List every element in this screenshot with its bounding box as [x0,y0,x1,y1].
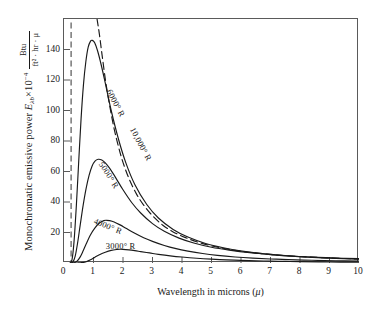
x-axis-tick-label: 1 [82,266,104,277]
y-axis-tick-labels: 20406080100120140 [30,18,60,262]
y-axis-tick-label: 140 [34,44,60,54]
x-axis-title: Wavelength in microns (μ) [63,286,358,297]
blackbody-emissive-power-chart: Monochromatic emissive power Eλb×10−4 Bt… [0,0,380,309]
x-axis-tick-label: 10 [347,266,369,277]
y-axis-tick-label: 20 [34,227,60,237]
x-axis-title-text: Wavelength in microns (μ) [157,286,264,297]
x-axis-tick-label: 0 [52,266,74,277]
x-axis-tick-label: 5 [200,266,222,277]
x-axis-tick-label: 7 [259,266,281,277]
tick-marks-group [64,50,330,264]
x-axis-tick-label: 9 [318,266,340,277]
curve-label-3000R: 3000° R [106,241,136,251]
x-axis-tick-label: 4 [170,266,192,277]
y-axis-tick-label: 120 [34,74,60,84]
y-axis-tick-label: 40 [34,196,60,206]
y-axis-tick-label: 100 [34,105,60,115]
y-axis-tick-label: 80 [34,135,60,145]
x-axis-tick-labels: 012345678910 [63,266,358,280]
plot-area: 6000° R10,000° R5000° R4000° R3000° R [63,18,358,262]
y-axis-units-numerator: Btu [19,42,29,58]
x-axis-tick-label: 6 [229,266,251,277]
y-axis-tick-label: 60 [34,166,60,176]
x-axis-tick-label: 3 [141,266,163,277]
x-axis-tick-label: 8 [288,266,310,277]
x-axis-tick-label: 2 [111,266,133,277]
